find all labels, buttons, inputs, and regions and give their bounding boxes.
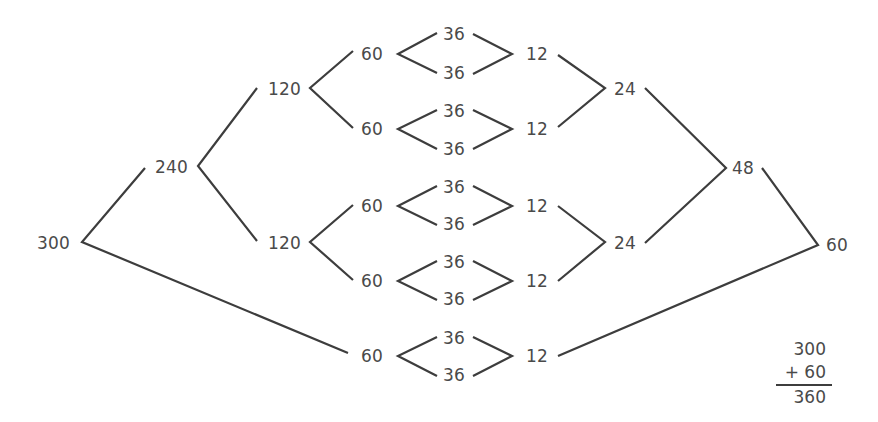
node-120-top: 120: [268, 79, 301, 99]
node-12-row1: 12: [526, 44, 548, 64]
sum-addend-2: + 60: [776, 361, 832, 384]
edge-result-60: [558, 168, 818, 356]
edge-row2-left: [398, 110, 437, 149]
sum-addend-1: 300: [776, 338, 832, 361]
node-36-row2-bottom: 36: [443, 139, 465, 159]
node-12-row3: 12: [526, 196, 548, 216]
edge-24-top: [558, 55, 605, 127]
node-36-row3-bottom: 36: [443, 214, 465, 234]
node-36-row4-top: 36: [443, 252, 465, 272]
node-12-row5: 12: [526, 346, 548, 366]
edge-120-bottom: [310, 205, 353, 280]
node-60-row3: 60: [361, 196, 383, 216]
edge-row1-left: [398, 33, 437, 73]
edge-row3-left: [398, 186, 437, 225]
node-24-bottom: 24: [614, 233, 636, 253]
node-36-row5-bottom: 36: [443, 365, 465, 385]
edge-row3-right: [473, 186, 512, 225]
node-240: 240: [155, 157, 188, 177]
node-36-row5-top: 36: [443, 328, 465, 348]
node-36-row1-top: 36: [443, 24, 465, 44]
node-60-row1: 60: [361, 44, 383, 64]
sum-calculation: 300 + 60 360: [776, 338, 832, 409]
node-result-60: 60: [826, 235, 848, 255]
edge-120-top: [310, 51, 353, 128]
edge-48: [645, 88, 726, 243]
edge-row1-right: [473, 34, 512, 74]
node-24-top: 24: [614, 79, 636, 99]
factor-tree-edges: [0, 0, 878, 422]
edge-300: [82, 168, 348, 353]
node-300: 300: [37, 233, 70, 253]
edge-row4-left: [398, 261, 437, 300]
node-120-bottom: 120: [268, 233, 301, 253]
edge-row2-right: [473, 110, 512, 149]
node-36-row3-top: 36: [443, 177, 465, 197]
node-36-row4-bottom: 36: [443, 289, 465, 309]
node-48: 48: [732, 158, 754, 178]
edge-row4-right: [473, 261, 512, 300]
edge-24-bottom: [558, 206, 605, 281]
edge-row5-right: [473, 337, 512, 376]
node-60-row5: 60: [361, 346, 383, 366]
edge-row5-left: [398, 337, 437, 376]
node-60-row4: 60: [361, 271, 383, 291]
node-60-row2: 60: [361, 119, 383, 139]
node-12-row2: 12: [526, 119, 548, 139]
edge-240: [198, 88, 257, 241]
node-12-row4: 12: [526, 271, 548, 291]
sum-total: 360: [776, 386, 832, 409]
node-36-row2-top: 36: [443, 101, 465, 121]
node-36-row1-bottom: 36: [443, 63, 465, 83]
